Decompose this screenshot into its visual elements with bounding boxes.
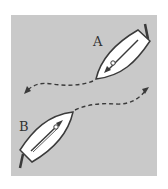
boat-a-label: A bbox=[93, 35, 102, 48]
boat-b-label: B bbox=[19, 120, 29, 133]
boat-b-mast-icon bbox=[54, 125, 58, 129]
diagram-svg bbox=[0, 0, 168, 189]
sailing-diagram: A B bbox=[0, 0, 168, 189]
boat-a-mast-icon bbox=[111, 61, 115, 65]
